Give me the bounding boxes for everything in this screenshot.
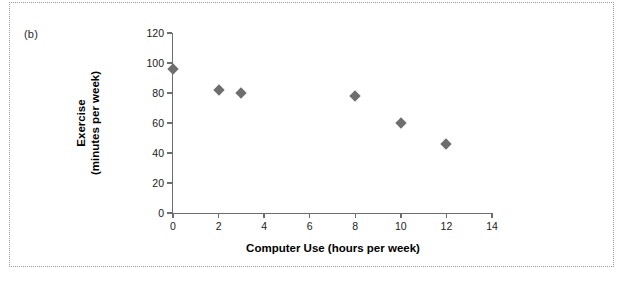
- data-point-marker: [213, 84, 224, 95]
- x-tick-label: 14: [477, 220, 507, 232]
- x-tick: [172, 213, 173, 218]
- data-point-marker: [350, 90, 361, 101]
- x-tick-label: 10: [386, 220, 416, 232]
- y-tick-label: 120: [136, 27, 164, 39]
- x-tick: [263, 213, 264, 218]
- y-tick-label: 0: [136, 207, 164, 219]
- data-point-marker: [167, 63, 178, 74]
- y-axis-title-line1: Exercise: [74, 71, 88, 175]
- y-axis-title: Exercise (minutes per week): [74, 71, 102, 175]
- y-tick-label: 60: [136, 117, 164, 129]
- data-point-marker: [236, 87, 247, 98]
- y-tick: [167, 212, 172, 213]
- x-tick: [491, 213, 492, 218]
- y-tick-label: 100: [136, 57, 164, 69]
- x-tick-label: 12: [431, 220, 461, 232]
- figure-panel-b: (b) 020406080100120 02468101214 Exercise…: [0, 0, 625, 289]
- x-tick-label: 0: [158, 220, 188, 232]
- x-tick: [446, 213, 447, 218]
- scatter-plot: 020406080100120 02468101214 Exercise (mi…: [0, 0, 625, 289]
- y-axis-line: [172, 33, 173, 214]
- y-tick-label: 20: [136, 177, 164, 189]
- x-tick: [400, 213, 401, 218]
- y-tick: [167, 182, 172, 183]
- y-tick: [167, 152, 172, 153]
- y-tick: [167, 32, 172, 33]
- x-tick: [355, 213, 356, 218]
- x-axis-line: [172, 213, 492, 214]
- data-point-marker: [441, 138, 452, 149]
- x-tick-label: 6: [295, 220, 325, 232]
- y-tick: [167, 92, 172, 93]
- x-tick: [218, 213, 219, 218]
- x-tick-label: 4: [249, 220, 279, 232]
- x-axis-title: Computer Use (hours per week): [173, 242, 493, 254]
- data-point-marker: [395, 117, 406, 128]
- y-tick: [167, 122, 172, 123]
- y-tick-label: 40: [136, 147, 164, 159]
- y-tick-label: 80: [136, 87, 164, 99]
- y-axis-title-line2: (minutes per week): [88, 71, 102, 175]
- x-tick: [309, 213, 310, 218]
- x-tick-label: 2: [204, 220, 234, 232]
- x-tick-label: 8: [340, 220, 370, 232]
